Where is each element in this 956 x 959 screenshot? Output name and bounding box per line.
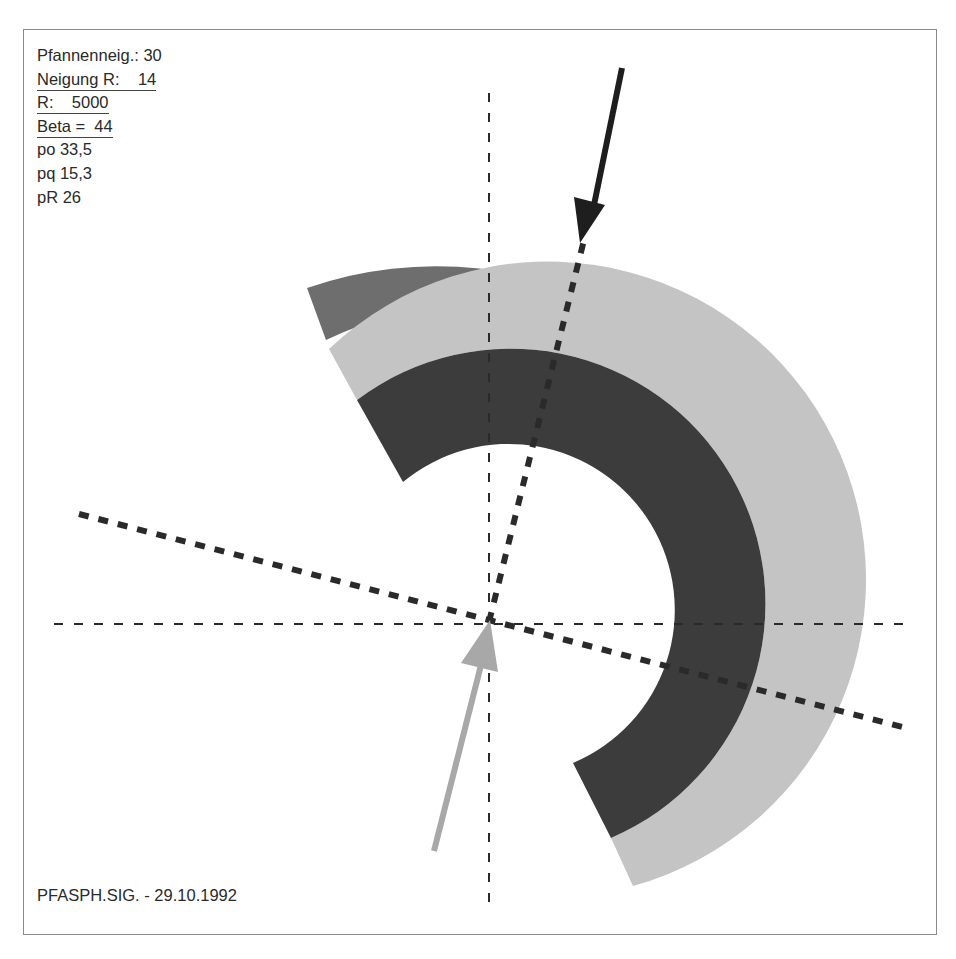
param-r: R: 5000 bbox=[37, 92, 109, 114]
parameter-list: Pfannenneig.: 30 Neigung R: 14 R: 5000 B… bbox=[37, 44, 162, 209]
param-beta: Beta = 44 bbox=[37, 116, 113, 138]
black-arrow bbox=[574, 68, 622, 243]
param-neigung-r: Neigung R: 14 bbox=[37, 69, 156, 91]
param-pfannenneig: Pfannenneig.: 30 bbox=[37, 44, 162, 68]
param-po: po 33,5 bbox=[37, 138, 162, 162]
param-pq: pq 15,3 bbox=[37, 162, 162, 186]
param-pr: pR 26 bbox=[37, 186, 162, 210]
file-caption: PFASPH.SIG. - 29.10.1992 bbox=[37, 886, 237, 905]
